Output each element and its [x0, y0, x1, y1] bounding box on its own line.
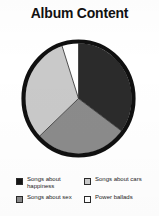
legend-item-songs-about-cars: Songs about cars [84, 176, 159, 191]
legend-item-label: Songs about cars [95, 176, 159, 183]
legend-column-right: Songs about cars Power ballads [84, 176, 159, 212]
page-title: Album Content [6, 4, 154, 21]
pie-chart-svg [21, 39, 136, 158]
legend-column-left: Songs about happiness Songs about sex [16, 176, 82, 212]
legend-item-label: Songs about sex [27, 194, 82, 201]
legend-swatch-icon [16, 196, 23, 203]
legend-item-songs-about-happiness: Songs about happiness [16, 176, 82, 191]
legend-item-label: Songs about happiness [27, 176, 82, 190]
pie-chart-figure: Album Content Songs about happiness [0, 0, 159, 216]
legend: Songs about happiness Songs about sex So… [0, 176, 159, 212]
legend-item-songs-about-sex: Songs about sex [16, 194, 82, 209]
legend-swatch-icon [84, 196, 91, 203]
legend-swatch-icon [16, 178, 23, 185]
legend-item-label: Power ballads [95, 194, 159, 201]
legend-item-power-ballads: Power ballads [84, 194, 159, 209]
legend-swatch-icon [84, 178, 91, 185]
pie-chart [21, 39, 136, 158]
